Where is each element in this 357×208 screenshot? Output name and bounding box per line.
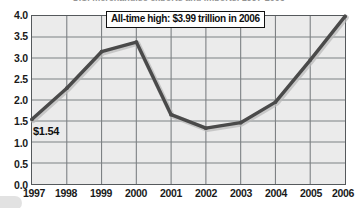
y-axis: 0.00.51.01.52.02.53.03.54.0 <box>0 15 28 185</box>
chart-title: U.S. merchandise exports and imports, 19… <box>0 0 357 1</box>
x-tick-label: 1999 <box>90 187 112 199</box>
all-time-high-callout: All-time high: $3.99 trillion in 2006 <box>106 11 265 28</box>
data-series-line <box>32 16 345 184</box>
y-tick-label: 3.5 <box>0 30 28 42</box>
first-point-value-label: $1.54 <box>33 125 59 137</box>
x-tick-label: 2004 <box>265 187 287 199</box>
x-tick-label: 1997 <box>23 187 45 199</box>
page-edge-artifact <box>0 196 22 208</box>
y-tick-label: 1.0 <box>0 137 28 149</box>
x-tick-label: 2002 <box>195 187 217 199</box>
y-tick-label: 1.5 <box>0 115 28 127</box>
plot-area <box>31 15 346 185</box>
x-tick-label: 2003 <box>230 187 252 199</box>
y-tick-label: 0.5 <box>0 158 28 170</box>
y-tick-label: 2.0 <box>0 94 28 106</box>
x-tick-label: 2000 <box>125 187 147 199</box>
x-tick-label: 1998 <box>55 187 77 199</box>
y-tick-label: 3.0 <box>0 52 28 64</box>
x-tick-label: 2001 <box>160 187 182 199</box>
x-tick-label: 2005 <box>300 187 322 199</box>
x-axis: 1997199819992000200120022003200420052006 <box>31 187 346 203</box>
x-tick-label: 2006 <box>332 187 354 199</box>
y-tick-label: 4.0 <box>0 9 28 21</box>
y-tick-label: 2.5 <box>0 73 28 85</box>
line-chart: U.S. merchandise exports and imports, 19… <box>0 0 357 208</box>
